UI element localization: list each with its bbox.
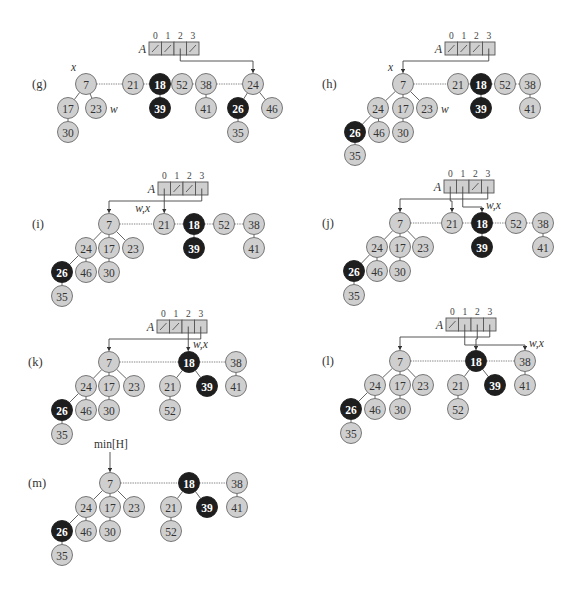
- pointer-label: w: [110, 103, 118, 115]
- heap-node-35: 35: [52, 286, 73, 307]
- array-index: 3: [485, 169, 490, 179]
- heap-node-21: 21: [161, 497, 182, 518]
- heap-node-26: 26: [344, 261, 365, 282]
- heap-node-7: 7: [99, 214, 120, 235]
- tree-edge: [69, 255, 78, 264]
- node-key: 38: [524, 79, 536, 91]
- heap-node-38: 38: [244, 214, 265, 235]
- heap-node-52: 52: [160, 400, 181, 421]
- node-key: 24: [247, 79, 259, 91]
- node-key: 21: [164, 381, 176, 393]
- node-key: 30: [103, 267, 115, 279]
- heap-node-18: 18: [179, 352, 200, 373]
- heap-node-21: 21: [448, 375, 469, 396]
- node-key: 7: [397, 218, 403, 230]
- node-key: 35: [56, 550, 68, 562]
- panel-label: (j): [322, 216, 334, 230]
- array-name: A: [146, 320, 155, 334]
- node-key: 30: [394, 266, 406, 278]
- tree-edge: [386, 91, 396, 100]
- heap-node-35: 35: [344, 285, 365, 306]
- array-index: 1: [165, 31, 170, 41]
- node-key: 35: [349, 150, 361, 162]
- node-key: 24: [80, 502, 92, 514]
- node-key: 30: [397, 127, 409, 139]
- node-key: 26: [349, 127, 361, 139]
- node-key: 38: [248, 219, 260, 231]
- node-key: 41: [200, 103, 212, 115]
- tree-edge: [177, 491, 182, 498]
- heap-node-18: 18: [466, 351, 487, 372]
- tree-edge: [383, 368, 393, 377]
- node-key: 24: [80, 243, 92, 255]
- node-key: 23: [90, 103, 102, 115]
- panel-i: (i)A0123w,x717182123242630353839414652: [32, 171, 265, 307]
- array-index: 2: [187, 171, 192, 181]
- node-key: 17: [103, 381, 115, 393]
- heap-node-39: 39: [485, 375, 506, 396]
- node-key: 52: [176, 79, 188, 91]
- heap-node-17: 17: [100, 497, 121, 518]
- array-A: A0123: [434, 31, 495, 56]
- heap-node-46: 46: [369, 122, 390, 143]
- array-index: 0: [161, 309, 166, 319]
- array-index: 0: [162, 171, 167, 181]
- node-key: 26: [232, 103, 244, 115]
- array-index: 2: [475, 307, 480, 317]
- array-index: 1: [174, 171, 179, 181]
- heap-node-26: 26: [345, 122, 366, 143]
- heap-node-52: 52: [506, 213, 527, 234]
- node-key: 26: [56, 526, 68, 538]
- node-key: 46: [80, 267, 92, 279]
- heap-node-23: 23: [86, 98, 107, 119]
- heap-node-17: 17: [390, 375, 411, 396]
- node-key: 41: [524, 103, 536, 115]
- node-key: 17: [394, 242, 406, 254]
- panel-label: (i): [32, 217, 44, 231]
- array-index: 3: [190, 31, 195, 41]
- tree-edge: [260, 92, 266, 100]
- node-key: 7: [106, 357, 112, 369]
- heap-node-17: 17: [393, 98, 414, 119]
- node-key: 23: [128, 381, 140, 393]
- heap-node-23: 23: [413, 375, 434, 396]
- node-key: 30: [104, 526, 116, 538]
- heap-node-26: 26: [52, 521, 73, 542]
- pointer-label: w,x: [193, 338, 209, 351]
- node-key: 18: [154, 79, 166, 91]
- heap-node-21: 21: [160, 376, 181, 397]
- node-key: 41: [230, 381, 242, 393]
- heap-node-26: 26: [52, 262, 73, 283]
- pointer-label: w,x: [529, 337, 545, 350]
- node-key: 7: [397, 356, 403, 368]
- node-key: 30: [62, 127, 74, 139]
- heap-node-17: 17: [390, 237, 411, 258]
- heap-node-7: 7: [390, 351, 411, 372]
- node-key: 26: [56, 267, 68, 279]
- array-index: 3: [199, 171, 204, 181]
- node-key: 23: [417, 242, 429, 254]
- heap-node-46: 46: [76, 400, 97, 421]
- node-key: 35: [56, 429, 68, 441]
- node-key: 46: [369, 404, 381, 416]
- heap-node-41: 41: [515, 375, 536, 396]
- heap-node-46: 46: [367, 261, 388, 282]
- heap-node-35: 35: [52, 545, 73, 566]
- heap-node-39: 39: [472, 237, 493, 258]
- heap-node-21: 21: [123, 74, 144, 95]
- heap-node-24: 24: [76, 497, 97, 518]
- node-key: 52: [165, 526, 177, 538]
- heap-node-46: 46: [262, 98, 283, 119]
- heap-node-18: 18: [471, 74, 492, 95]
- heap-node-41: 41: [520, 98, 541, 119]
- tree-edge: [69, 514, 78, 523]
- node-key: 21: [452, 380, 464, 392]
- node-key: 23: [128, 502, 140, 514]
- heap-node-17: 17: [99, 376, 120, 397]
- heap-node-18: 18: [150, 74, 171, 95]
- node-key: 30: [103, 405, 115, 417]
- heap-node-21: 21: [448, 74, 469, 95]
- heap-node-41: 41: [227, 497, 248, 518]
- heap-node-23: 23: [413, 237, 434, 258]
- array-index: 1: [461, 31, 466, 41]
